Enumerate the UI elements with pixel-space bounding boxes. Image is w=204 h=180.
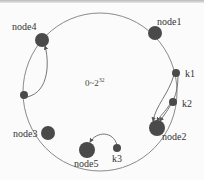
key-unlabeled xyxy=(20,91,28,99)
ring-range-label: 0~232 xyxy=(85,77,105,88)
key-k2 xyxy=(169,98,177,106)
arrow-key-to-node4 xyxy=(27,46,47,97)
label-node2: node2 xyxy=(162,131,186,142)
hash-ring-diagram: 0~232 node4 node1 k1 k2 node2 k3 nod xyxy=(0,0,204,180)
label-node3: node3 xyxy=(13,128,37,139)
label-k1: k1 xyxy=(185,68,195,79)
label-node1: node1 xyxy=(157,16,181,27)
label-node5: node5 xyxy=(74,158,98,169)
key-k1 xyxy=(172,69,180,77)
node-node4 xyxy=(35,33,49,47)
node-node3 xyxy=(41,126,55,140)
label-k2: k2 xyxy=(182,98,192,109)
label-node4: node4 xyxy=(12,21,36,32)
node-node1 xyxy=(148,26,162,40)
arrow-k3-to-node5 xyxy=(90,134,117,145)
diagram-svg: 0~232 node4 node1 k1 k2 node2 k3 nod xyxy=(0,0,204,180)
key-k3 xyxy=(113,144,121,152)
label-k3: k3 xyxy=(112,153,122,164)
node-node5 xyxy=(79,142,95,158)
arrow-k1-to-node2 xyxy=(153,75,174,121)
